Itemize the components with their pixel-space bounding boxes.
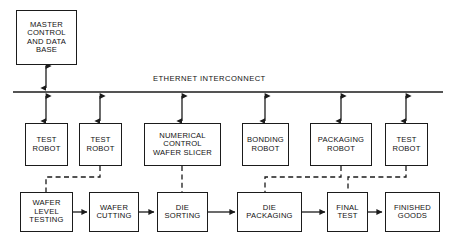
node-test-robot-3-label: TEST ROBOT <box>386 136 427 153</box>
node-numerical-control-wafer-slicer-label: NUMERICAL CONTROL WAFER SLICER <box>145 132 220 158</box>
node-master-control-and-database[interactable]: MASTER CONTROL AND DATA BASE <box>16 10 77 65</box>
node-master-control-and-database-label: MASTER CONTROL AND DATA BASE <box>17 21 76 55</box>
node-wafer-cutting-label: WAFER CUTTING <box>90 204 138 221</box>
node-wafer-level-testing-label: WAFER LEVEL TESTING <box>21 199 72 225</box>
dashed-link-bonding-packaging-to-die-packaging <box>265 166 341 192</box>
node-test-robot-1-label: TEST ROBOT <box>26 136 67 153</box>
node-die-sorting-label: DIE SORTING <box>158 204 207 221</box>
node-test-robot-2[interactable]: TEST ROBOT <box>79 123 122 166</box>
node-numerical-control-wafer-slicer[interactable]: NUMERICAL CONTROL WAFER SLICER <box>144 123 221 166</box>
node-packaging-robot-label: PACKAGING ROBOT <box>311 136 371 153</box>
dashed-link-test-robot-3-to-final-test <box>348 166 406 192</box>
node-wafer-cutting[interactable]: WAFER CUTTING <box>89 192 139 232</box>
node-die-packaging[interactable]: DIE PACKAGING <box>237 192 302 232</box>
node-finished-goods-label: FINISHED GOODS <box>386 204 439 221</box>
dashed-link-test-robots-to-wafer-level-testing <box>46 166 100 192</box>
diagram-canvas: ETHERNET INTERCONNECT MASTER CONTROL AND… <box>0 0 453 243</box>
node-die-sorting[interactable]: DIE SORTING <box>157 192 208 232</box>
node-final-test-label: FINAL TEST <box>328 204 367 221</box>
ethernet-bus-label: ETHERNET INTERCONNECT <box>153 74 266 83</box>
node-bonding-robot-label: BONDING ROBOT <box>243 136 288 153</box>
node-test-robot-1[interactable]: TEST ROBOT <box>25 123 68 166</box>
node-final-test[interactable]: FINAL TEST <box>327 192 368 232</box>
node-test-robot-3[interactable]: TEST ROBOT <box>385 123 428 166</box>
node-bonding-robot[interactable]: BONDING ROBOT <box>242 123 289 166</box>
node-die-packaging-label: DIE PACKAGING <box>238 204 301 221</box>
node-wafer-level-testing[interactable]: WAFER LEVEL TESTING <box>20 192 73 232</box>
node-packaging-robot[interactable]: PACKAGING ROBOT <box>310 123 372 166</box>
node-finished-goods[interactable]: FINISHED GOODS <box>385 192 440 232</box>
node-test-robot-2-label: TEST ROBOT <box>80 136 121 153</box>
